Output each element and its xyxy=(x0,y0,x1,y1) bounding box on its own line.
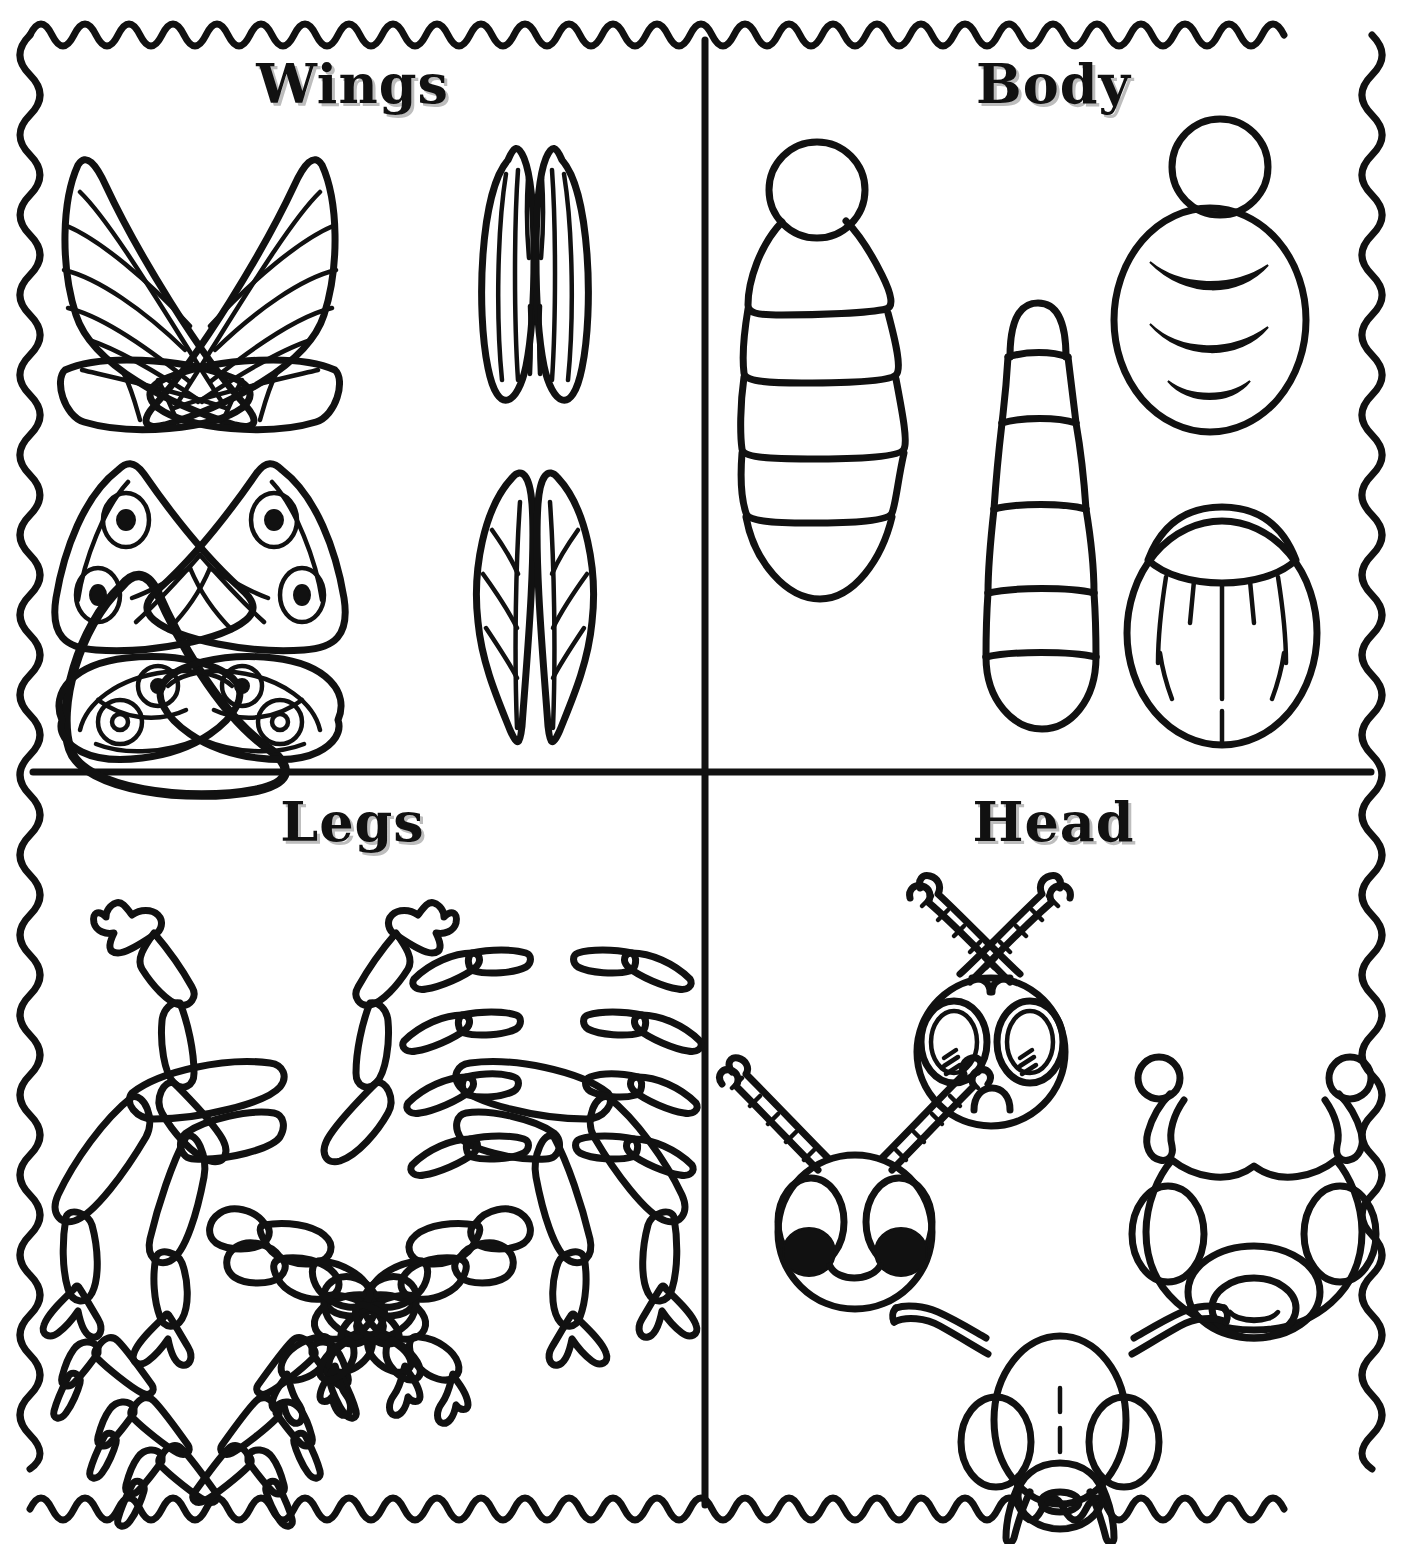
body-quadrant-art xyxy=(720,105,1385,765)
thin-curved-leg-row-1-right xyxy=(574,950,692,989)
striped-elytra-wing-right xyxy=(536,148,588,400)
jointed-leg-upper-right xyxy=(324,903,456,1162)
thin-curved-leg-row-4-left xyxy=(411,1136,529,1175)
quadrant-title-head: Head xyxy=(705,790,1402,854)
thin-curved-leg-row-2-left xyxy=(403,1012,521,1051)
quadrant-title-wings: Wings xyxy=(0,52,705,116)
thin-curved-leg-row-3-right xyxy=(586,1074,698,1113)
elongated-segmented-abdomen xyxy=(986,303,1096,729)
smiling-head-black-pupils xyxy=(720,1058,991,1309)
beetle-shell-body xyxy=(1127,507,1317,745)
legs-quadrant-art xyxy=(40,865,700,1505)
thin-curved-leg-row-2-right xyxy=(584,1012,702,1051)
leaf-wing-right xyxy=(537,473,593,742)
mandible-head-straight-antennae xyxy=(893,1306,1228,1543)
wings-quadrant-art xyxy=(40,130,700,750)
quadrant-title-legs: Legs xyxy=(0,790,705,854)
round-head-segmented-antennae xyxy=(910,876,1071,1126)
worksheet-page: Wings Body Legs Head xyxy=(0,0,1402,1544)
leaf-wing-left xyxy=(476,473,532,742)
ladybug-oval-body xyxy=(1114,119,1306,432)
head-quadrant-art xyxy=(710,860,1390,1510)
ant-head-club-antennae xyxy=(1132,1057,1376,1338)
segmented-bee-body xyxy=(741,142,906,599)
angular-bent-leg-2-left xyxy=(90,1398,190,1478)
striped-elytra-wing-left xyxy=(482,148,534,400)
